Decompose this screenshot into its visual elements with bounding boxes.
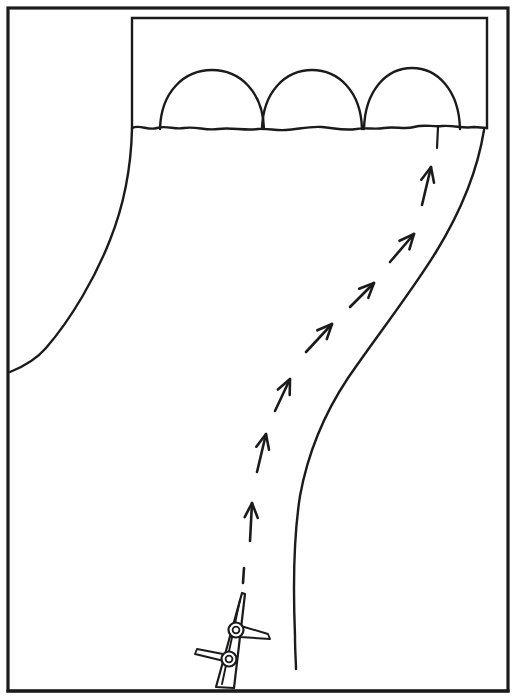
right-bank-group xyxy=(294,130,484,669)
arch-left xyxy=(160,70,264,129)
line-drawing-canvas xyxy=(0,0,516,699)
channel-marker-tick xyxy=(437,127,438,148)
left-bank-group xyxy=(10,129,132,372)
trajectory-arrow-7 xyxy=(421,167,434,205)
horizon-line xyxy=(132,126,487,131)
trajectory-arrow-6 xyxy=(390,234,414,262)
trajectory-arrow-4 xyxy=(306,324,332,352)
yard-arm-lower xyxy=(195,649,224,661)
trajectory-arrow-1 xyxy=(245,503,258,541)
trajectory-arrows-group xyxy=(243,167,434,583)
trajectory-lead-dash xyxy=(243,568,244,583)
mast-ring-lower-core xyxy=(226,656,233,663)
outer-frame-group xyxy=(8,8,508,691)
yard-arm-upper xyxy=(240,626,270,639)
left-bank-curve xyxy=(10,129,132,372)
trajectory-arrow-3 xyxy=(275,379,290,411)
figure-root: Line drawing: vessel trajectory toward a… xyxy=(0,0,516,699)
mast-seam xyxy=(222,600,240,684)
outer-frame-border xyxy=(8,8,508,691)
trajectory-arrow-2 xyxy=(256,434,269,472)
arch-right xyxy=(364,68,460,129)
arches-group xyxy=(160,68,460,129)
vessel-mast-group xyxy=(195,593,270,688)
right-bank-curve xyxy=(294,130,484,669)
trajectory-arrow-5 xyxy=(350,283,374,307)
mast-ring-upper-core xyxy=(233,627,240,634)
arch-center xyxy=(262,70,362,129)
horizon-group xyxy=(132,126,487,131)
channel-marker-group xyxy=(437,127,438,148)
